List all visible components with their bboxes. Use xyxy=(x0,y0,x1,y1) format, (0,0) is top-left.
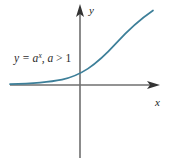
equation-annotation: y = ax, a > 1 xyxy=(13,51,71,65)
y-axis-label: y xyxy=(88,4,94,16)
equation-value: 1 xyxy=(65,52,71,64)
equation-base: y = a xyxy=(13,52,39,65)
equation-operator: > xyxy=(53,52,65,64)
x-axis-label: x xyxy=(154,96,160,108)
exponential-graph-figure: y x y = ax, a > 1 xyxy=(0,0,175,158)
exponential-curve xyxy=(10,11,153,85)
graph-canvas: y x y = ax, a > 1 xyxy=(0,0,175,158)
